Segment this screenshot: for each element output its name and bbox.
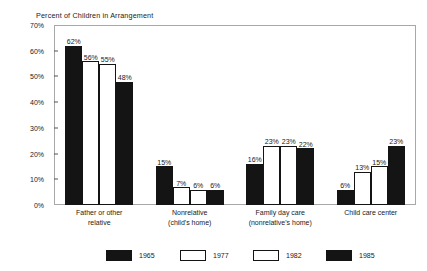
legend-swatch <box>106 250 132 261</box>
y-axis-tick-label: 50% <box>30 73 44 80</box>
legend-item: 1977 <box>180 248 229 262</box>
legend-label: 1977 <box>213 252 229 259</box>
y-axis-tick-label: 10% <box>30 176 44 183</box>
y-axis-tick-mark <box>54 179 58 180</box>
bar-value-label: 6% <box>193 182 203 189</box>
legend-swatch <box>253 250 279 261</box>
y-axis-tick-mark <box>54 153 58 154</box>
bar: 15% <box>371 166 388 205</box>
y-axis-tick-label: 60% <box>30 47 44 54</box>
bar: 23% <box>280 146 297 205</box>
y-axis-tick-mark <box>54 127 58 128</box>
bar-value-label: 15% <box>157 159 171 166</box>
bar: 55% <box>99 64 116 205</box>
bar-value-label: 13% <box>355 164 369 171</box>
legend-item: 1982 <box>253 248 302 262</box>
bar-value-label: 6% <box>340 182 350 189</box>
legend-swatch <box>326 250 352 261</box>
bar: 15% <box>156 166 173 205</box>
y-axis-tick-mark <box>54 76 58 77</box>
legend-item: 1985 <box>326 248 375 262</box>
y-axis-tick-label: 70% <box>30 22 44 29</box>
y-axis-tick-label: 0% <box>34 202 44 209</box>
x-axis-category-label: Family day care (nonrelative's home) <box>235 208 326 227</box>
legend-label: 1985 <box>359 252 375 259</box>
bar-value-label: 22% <box>299 141 313 148</box>
bar-value-label: 6% <box>210 182 220 189</box>
bar-chart: Percent of Children in Arrangement 0%10%… <box>0 0 427 271</box>
x-axis-category-label: Father or other relative <box>54 208 145 227</box>
bar-value-label: 56% <box>84 54 98 61</box>
bars-layer: 62%56%55%48%15%7%6%6%16%23%23%22%6%13%15… <box>54 25 416 205</box>
bar: 23% <box>388 146 405 205</box>
bar: 7% <box>173 187 190 205</box>
legend-swatch <box>180 250 206 261</box>
bar-value-label: 48% <box>118 74 132 81</box>
y-axis-tick-mark <box>54 102 58 103</box>
legend-label: 1982 <box>286 252 302 259</box>
y-axis-tick-label: 20% <box>30 150 44 157</box>
bar-value-label: 62% <box>67 38 81 45</box>
bar-value-label: 15% <box>372 159 386 166</box>
chart-legend: 1965197719821985 <box>0 248 427 264</box>
bar: 6% <box>207 190 224 205</box>
x-axis-category-labels: Father or other relativeNonrelative (chi… <box>54 208 416 236</box>
legend-label: 1965 <box>139 252 155 259</box>
bar: 56% <box>82 61 99 205</box>
bar-value-label: 16% <box>248 156 262 163</box>
bar: 16% <box>246 164 263 205</box>
bar: 13% <box>354 172 371 205</box>
y-axis: 0%10%20%30%40%50%60%70% <box>0 25 54 205</box>
bar: 48% <box>116 82 133 205</box>
bar-value-label: 55% <box>101 56 115 63</box>
y-axis-tick-label: 30% <box>30 124 44 131</box>
bar-value-label: 23% <box>265 138 279 145</box>
bar-value-label: 23% <box>389 138 403 145</box>
bar: 6% <box>337 190 354 205</box>
bar: 23% <box>263 146 280 205</box>
bar: 62% <box>65 46 82 205</box>
x-axis-category-label: Nonrelative (child's home) <box>145 208 236 227</box>
bar-value-label: 23% <box>282 138 296 145</box>
x-axis-category-label: Child care center <box>326 208 417 218</box>
bar: 22% <box>297 148 314 205</box>
y-axis-tick-label: 40% <box>30 99 44 106</box>
legend-item: 1965 <box>106 248 155 262</box>
bar-value-label: 7% <box>176 180 186 187</box>
y-axis-tick-mark <box>54 50 58 51</box>
bar: 6% <box>190 190 207 205</box>
chart-title: Percent of Children in Arrangement <box>36 11 153 20</box>
